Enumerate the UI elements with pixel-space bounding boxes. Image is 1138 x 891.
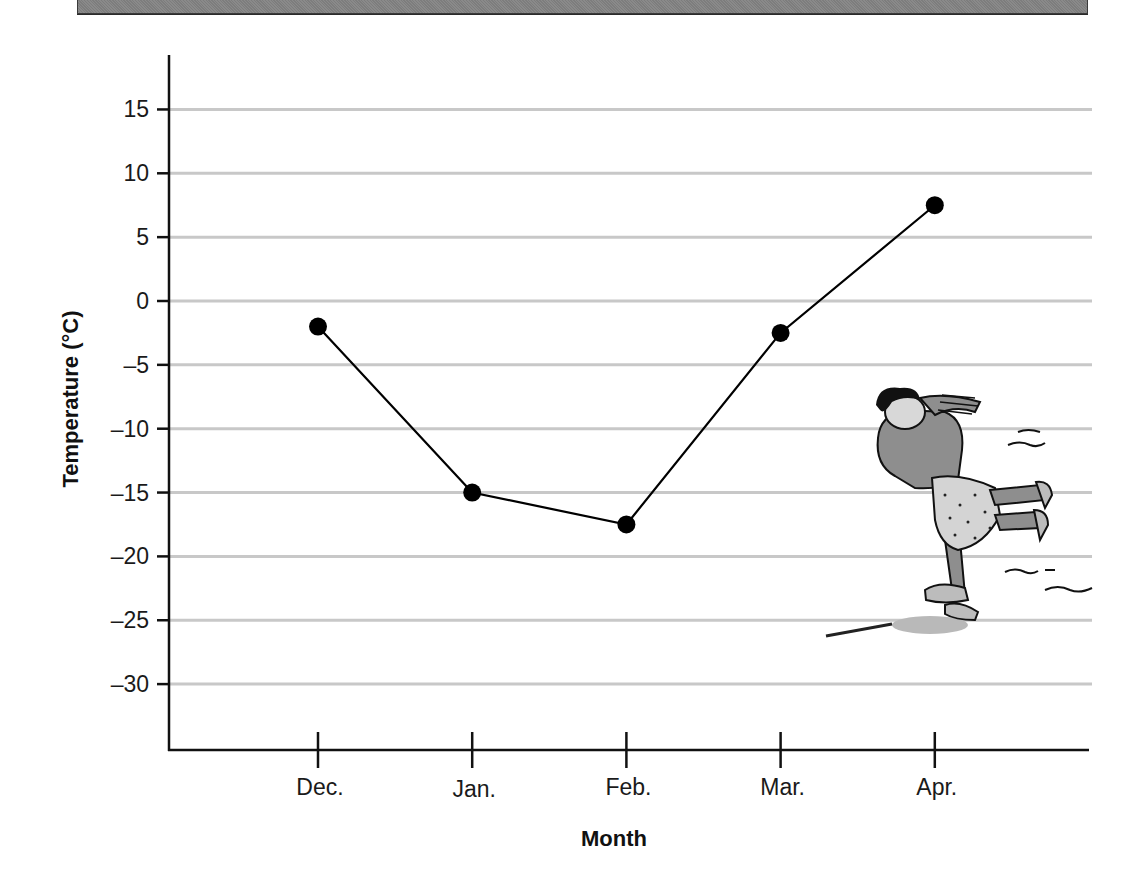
x-axis-title: Month bbox=[581, 826, 647, 851]
y-axis-title: Temperature (°C) bbox=[58, 310, 83, 487]
y-tick-label: –15 bbox=[111, 480, 149, 506]
data-point-marker bbox=[772, 324, 790, 342]
x-tick-label: Dec. bbox=[296, 774, 343, 800]
data-point-marker bbox=[926, 196, 944, 214]
data-point-marker bbox=[463, 484, 481, 502]
y-tick-label: 10 bbox=[123, 160, 149, 186]
y-tick-label: 0 bbox=[136, 288, 149, 314]
x-axis-ticks: Dec.Jan.Feb.Mar.Apr. bbox=[296, 732, 957, 802]
y-tick-label: –10 bbox=[111, 416, 149, 442]
y-tick-label: –20 bbox=[111, 543, 149, 569]
data-point-marker bbox=[309, 318, 327, 336]
y-axis-ticks: 151050–5–10–15–20–25–30 bbox=[111, 96, 170, 697]
y-tick-label: 5 bbox=[136, 224, 149, 250]
line-chart: 151050–5–10–15–20–25–30 Dec.Jan.Feb.Mar.… bbox=[0, 0, 1138, 891]
ice-mark-icon bbox=[826, 624, 892, 636]
y-tick-label: –25 bbox=[111, 607, 149, 633]
y-tick-label: –5 bbox=[123, 352, 149, 378]
x-tick-label: Apr. bbox=[916, 774, 957, 800]
y-tick-label: 15 bbox=[123, 96, 149, 122]
x-tick-label: Feb. bbox=[605, 774, 651, 800]
y-tick-label: –30 bbox=[111, 671, 149, 697]
x-tick-label: Mar. bbox=[760, 774, 805, 800]
data-point-marker bbox=[617, 515, 635, 533]
ice-skater-illustration bbox=[826, 388, 1092, 636]
x-tick-label: Jan. bbox=[452, 776, 495, 802]
